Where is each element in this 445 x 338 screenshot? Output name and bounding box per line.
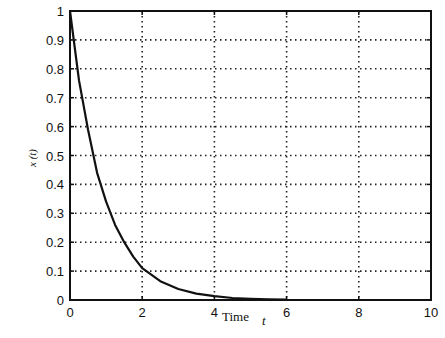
x-tick-labels: 0246810 xyxy=(66,305,438,320)
y-tick-label: 0.1 xyxy=(46,264,64,279)
x-axis-variable: t xyxy=(262,313,266,328)
x-tick-label: 0 xyxy=(66,305,73,320)
y-tick-label: 0.8 xyxy=(46,62,64,77)
x-tick-label: 6 xyxy=(283,305,290,320)
y-tick-labels: 00.10.20.30.40.50.60.70.80.91 xyxy=(46,4,64,308)
y-tick-label: 0.6 xyxy=(46,120,64,135)
y-tick-label: 0.3 xyxy=(46,206,64,221)
y-tick-label: 0.9 xyxy=(46,33,64,48)
grid-lines xyxy=(70,11,431,300)
y-tick-label: 0.5 xyxy=(46,149,64,164)
y-axis-label: x (t) xyxy=(26,149,39,168)
y-tick-label: 0.2 xyxy=(46,235,64,250)
y-tick-label: 0 xyxy=(57,293,64,308)
y-tick-label: 1 xyxy=(57,4,64,19)
x-tick-label: 4 xyxy=(211,305,218,320)
x-tick-label: 10 xyxy=(424,305,438,320)
x-tick-label: 2 xyxy=(139,305,146,320)
y-tick-label: 0.4 xyxy=(46,177,64,192)
x-tick-label: 8 xyxy=(355,305,362,320)
y-tick-label: 0.7 xyxy=(46,91,64,106)
line-chart: 0246810 00.10.20.30.40.50.60.70.80.91 Ti… xyxy=(0,0,445,338)
series-line-x-t xyxy=(70,11,287,300)
x-axis-label: Time xyxy=(222,309,249,324)
